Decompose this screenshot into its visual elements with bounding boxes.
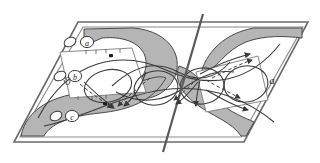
label-a-right: a	[269, 74, 275, 86]
circled-label-c-bottom-text: c	[70, 113, 74, 122]
circled-label-b-middle-text: b	[73, 73, 77, 82]
marker-dot-upper-band	[109, 54, 113, 57]
circled-label-c-bottom: c	[65, 110, 78, 121]
circled-label-a-top-text: a	[85, 39, 89, 48]
braid-diagram-svg: a b c a	[0, 0, 320, 163]
marker-dot-lower-band	[103, 102, 107, 105]
figure-root: a b c a	[0, 0, 320, 163]
circled-label-a-top: a	[80, 36, 93, 47]
